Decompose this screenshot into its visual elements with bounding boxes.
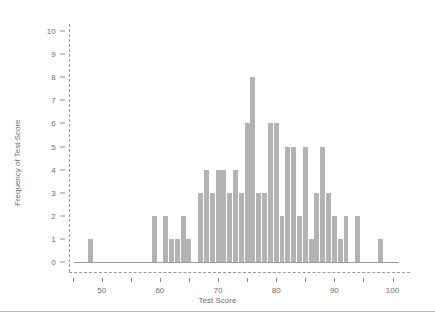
- histogram-bar: [233, 170, 238, 262]
- histogram-bar: [216, 170, 221, 262]
- histogram-bar: [221, 170, 226, 262]
- x-tick-mark: [334, 278, 335, 282]
- histogram-bar: [355, 216, 360, 262]
- histogram-bar: [297, 216, 302, 262]
- histogram-bar: [280, 216, 285, 262]
- histogram-bar: [152, 216, 157, 262]
- histogram-bar: [88, 239, 93, 262]
- x-tick-mark: [218, 278, 219, 282]
- histogram-bar: [227, 193, 232, 262]
- x-tick-label: 70: [214, 286, 223, 295]
- histogram-bar: [285, 147, 290, 263]
- histogram-bar: [326, 193, 331, 262]
- x-tick-mark: [102, 278, 103, 282]
- x-tick-mark: [393, 278, 394, 282]
- x-axis-title: Test Score: [0, 296, 435, 305]
- histogram-bar: [250, 77, 255, 262]
- x-tick-label: 80: [272, 286, 281, 295]
- histogram-bar: [338, 239, 343, 262]
- histogram-bar: [332, 216, 337, 262]
- x-axis-dashed-line: [69, 272, 410, 273]
- x-tick-mark: [131, 278, 132, 282]
- x-tick-mark: [247, 278, 248, 282]
- x-tick-mark: [189, 278, 190, 282]
- histogram-bar: [291, 147, 296, 263]
- histogram-bar: [378, 239, 383, 262]
- histogram-bar: [186, 239, 191, 262]
- x-tick-mark: [363, 278, 364, 282]
- histogram-bar: [204, 170, 209, 262]
- histogram-bar: [181, 216, 186, 262]
- y-axis-title: Frequency of Test Score: [13, 194, 22, 206]
- x-tick-label: 100: [386, 286, 399, 295]
- x-tick-label: 50: [97, 286, 106, 295]
- histogram-bar: [169, 239, 174, 262]
- x-tick-label: 90: [330, 286, 339, 295]
- bottom-divider: [0, 311, 435, 312]
- bars-container: [0, 0, 435, 262]
- x-tick-mark: [160, 278, 161, 282]
- x-tick-label: 60: [155, 286, 164, 295]
- histogram-bar: [256, 193, 261, 262]
- histogram-bar: [303, 147, 308, 263]
- histogram-bar: [268, 123, 273, 262]
- x-tick-mark: [276, 278, 277, 282]
- histogram-bar: [262, 193, 267, 262]
- x-tick-mark: [305, 278, 306, 282]
- histogram-bar: [274, 123, 279, 262]
- zero-baseline: [74, 262, 400, 263]
- histogram-plot: 012345678910 5060708090100 Frequency of …: [0, 0, 435, 320]
- histogram-bar: [210, 193, 215, 262]
- histogram-bar: [309, 239, 314, 262]
- x-tick-mark: [73, 278, 74, 282]
- histogram-bar: [175, 239, 180, 262]
- histogram-bar: [163, 216, 168, 262]
- histogram-bar: [320, 147, 325, 263]
- chart-page: 012345678910 5060708090100 Frequency of …: [0, 0, 435, 320]
- histogram-bar: [198, 193, 203, 262]
- histogram-bar: [239, 193, 244, 262]
- histogram-bar: [245, 123, 250, 262]
- histogram-bar: [314, 193, 319, 262]
- histogram-bar: [344, 216, 349, 262]
